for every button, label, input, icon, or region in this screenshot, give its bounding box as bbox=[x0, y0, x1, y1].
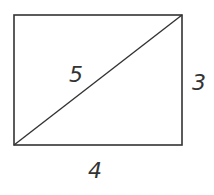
rectangle-diagram: 5 3 4 bbox=[0, 0, 214, 195]
diagonal-line bbox=[14, 15, 182, 145]
bottom-side-label: 4 bbox=[88, 158, 102, 183]
diagonal-label: 5 bbox=[69, 62, 83, 87]
right-side-label: 3 bbox=[192, 70, 206, 95]
